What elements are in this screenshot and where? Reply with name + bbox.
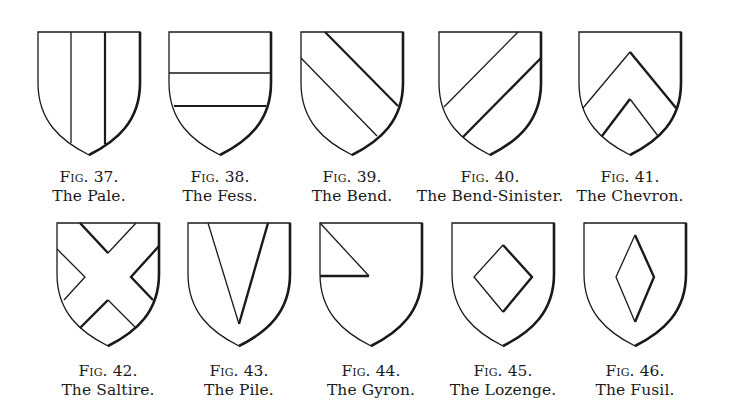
figure-number: Fig. 45. (428, 362, 578, 381)
figure-name: The Bend. (277, 187, 427, 206)
shield-saltire-icon (55, 221, 161, 349)
figure-number: Fig. 46. (560, 362, 710, 381)
figure-chevron: Fig. 41. The Chevron. (555, 30, 705, 206)
figure-lozenge: Fig. 45. The Lozenge. (428, 221, 578, 400)
figure-name: The Lozenge. (428, 381, 578, 400)
figure-bend: Fig. 39. The Bend. (277, 30, 427, 206)
figure-gyron: Fig. 44. The Gyron. (296, 221, 446, 400)
figure-number: Fig. 43. (164, 362, 314, 381)
figure-saltire: Fig. 42. The Saltire. (33, 221, 183, 400)
figure-name: The Fusil. (560, 381, 710, 400)
shield-fusil-icon (582, 221, 688, 349)
figure-fess: Fig. 38. The Fess. (145, 30, 295, 206)
figure-name: The Chevron. (555, 187, 705, 206)
figure-number: Fig. 39. (277, 168, 427, 187)
shield-pile-icon (186, 221, 292, 349)
figure-name: The Pale. (14, 187, 164, 206)
figure-number: Fig. 42. (33, 362, 183, 381)
figure-number: Fig. 38. (145, 168, 295, 187)
figure-number: Fig. 37. (14, 168, 164, 187)
figure-bend-sinister: Fig. 40. The Bend-Sinister. (410, 30, 570, 206)
figure-number: Fig. 44. (296, 362, 446, 381)
shield-bend-icon (299, 30, 405, 158)
figure-name: The Fess. (145, 187, 295, 206)
shield-bend-sinister-icon (437, 30, 543, 158)
figure-number: Fig. 40. (410, 168, 570, 187)
figure-name: The Bend-Sinister. (410, 187, 570, 206)
shield-gyron-icon (318, 221, 424, 349)
shield-pale-icon (36, 30, 142, 158)
figure-fusil: Fig. 46. The Fusil. (560, 221, 710, 400)
figure-pale: Fig. 37. The Pale. (14, 30, 164, 206)
figure-pile: Fig. 43. The Pile. (164, 221, 314, 400)
figure-name: The Pile. (164, 381, 314, 400)
figure-name: The Gyron. (296, 381, 446, 400)
figure-name: The Saltire. (33, 381, 183, 400)
shield-lozenge-icon (450, 221, 556, 349)
shield-fess-icon (167, 30, 273, 158)
shield-chevron-icon (577, 30, 683, 158)
figure-number: Fig. 41. (555, 168, 705, 187)
